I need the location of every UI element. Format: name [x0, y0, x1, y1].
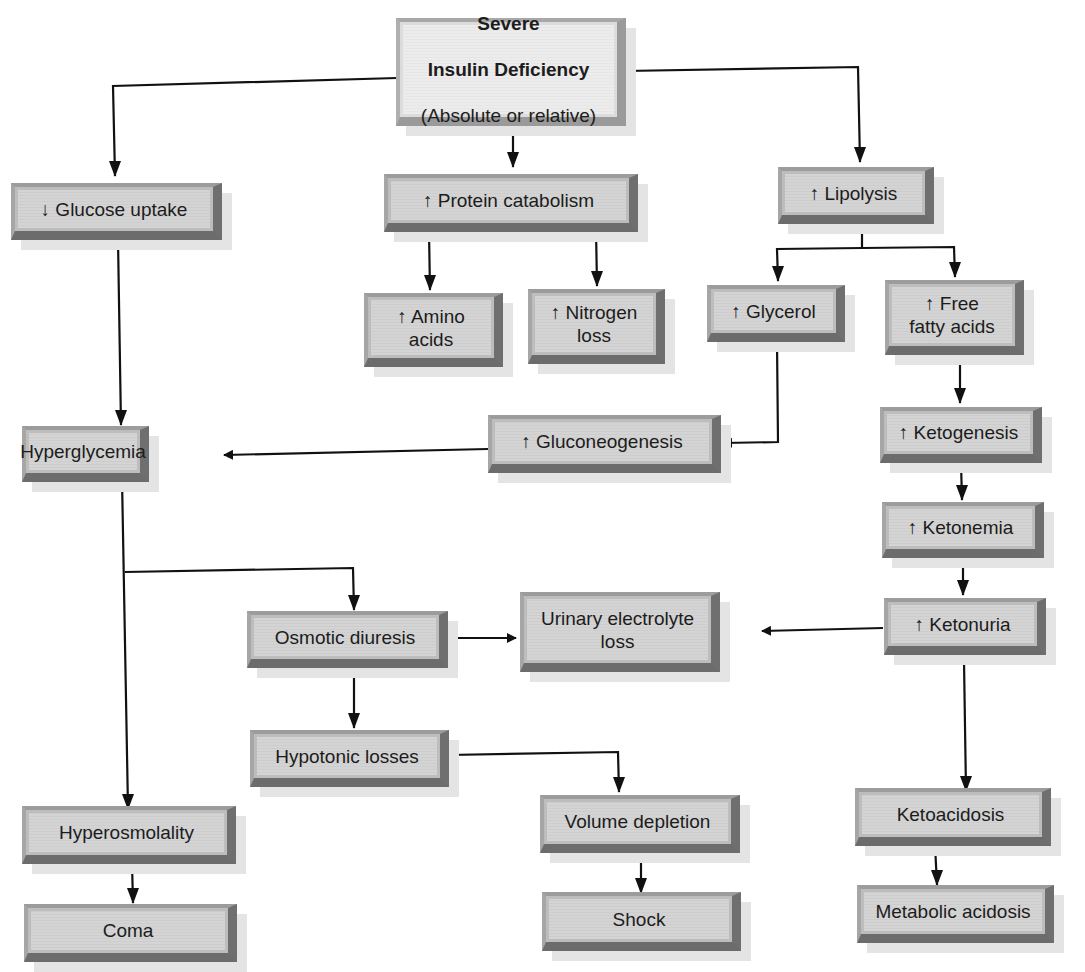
- node-hypotonic-losses: Hypotonic losses: [250, 730, 449, 787]
- edge-hypotonic-volume: [448, 752, 619, 792]
- edge-ketogenesis-ketonemia: [961, 463, 962, 500]
- edge-root-lipolysis: [625, 67, 860, 162]
- edge-ketonuria-urinary: [762, 628, 883, 631]
- node-coma: Coma: [24, 904, 237, 962]
- edge-lipolysis-glycerol: [777, 248, 862, 281]
- node-gluconeogenesis: ↑ Gluconeogenesis: [488, 415, 721, 473]
- edge-hyperglycemia-trunk: [122, 478, 128, 809]
- node-metabolic-acidosis: Metabolic acidosis: [857, 885, 1054, 943]
- node-ketonuria: ↑ Ketonuria: [884, 598, 1046, 655]
- node-amino-acids: ↑ Amino acids: [364, 293, 503, 367]
- node-glycerol: ↑ Glycerol: [707, 285, 845, 342]
- edge-root-glucose-uptake: [113, 78, 397, 176]
- node-protein-catabolism: ↑ Protein catabolism: [384, 174, 638, 232]
- node-osmotic-diuresis: Osmotic diuresis: [247, 611, 448, 668]
- node-ketogenesis: ↑ Ketogenesis: [880, 407, 1042, 463]
- edge-hyperosmolality-coma: [132, 863, 133, 903]
- node-severe-insulin-deficiency: Severe Insulin Deficiency (Absolute or r…: [396, 18, 626, 126]
- node-urinary-electrolyte-loss: Urinary electrolyte loss: [520, 592, 720, 672]
- edge-ketonuria-ketoacidosis: [964, 661, 966, 791]
- root-title-line1: Severe: [421, 12, 596, 35]
- edge-ketoacidosis-metabolic: [935, 845, 937, 885]
- root-subtitle: (Absolute or relative): [421, 104, 596, 127]
- edge-glucose-hyperglycemia: [118, 240, 121, 425]
- node-ketoacidosis: Ketoacidosis: [855, 788, 1051, 846]
- node-volume-depletion: Volume depletion: [540, 795, 740, 853]
- flowchart-canvas: Severe Insulin Deficiency (Absolute or r…: [0, 0, 1085, 972]
- node-nitrogen-loss: ↑ Nitrogen loss: [528, 289, 665, 364]
- edge-gluconeo-hyperglycemia: [224, 449, 488, 455]
- edge-lipolysis-ffa: [862, 247, 955, 277]
- node-shock: Shock: [542, 892, 741, 951]
- root-title-line2: Insulin Deficiency: [421, 58, 596, 81]
- edge-protein-nitrogen: [596, 229, 597, 286]
- node-glucose-uptake: ↓ Glucose uptake: [11, 183, 222, 240]
- edge-hyperglycemia-osmotic: [125, 568, 354, 610]
- node-hyperglycemia: Hyperglycemia: [22, 426, 149, 482]
- node-lipolysis: ↑ Lipolysis: [778, 167, 934, 224]
- edge-protein-amino: [429, 232, 430, 290]
- node-ketonemia: ↑ Ketonemia: [882, 502, 1044, 558]
- node-hyperosmolality: Hyperosmolality: [22, 806, 236, 864]
- node-free-fatty-acids: ↑ Free fatty acids: [885, 280, 1024, 355]
- edge-glycerol-gluconeo: [723, 342, 778, 443]
